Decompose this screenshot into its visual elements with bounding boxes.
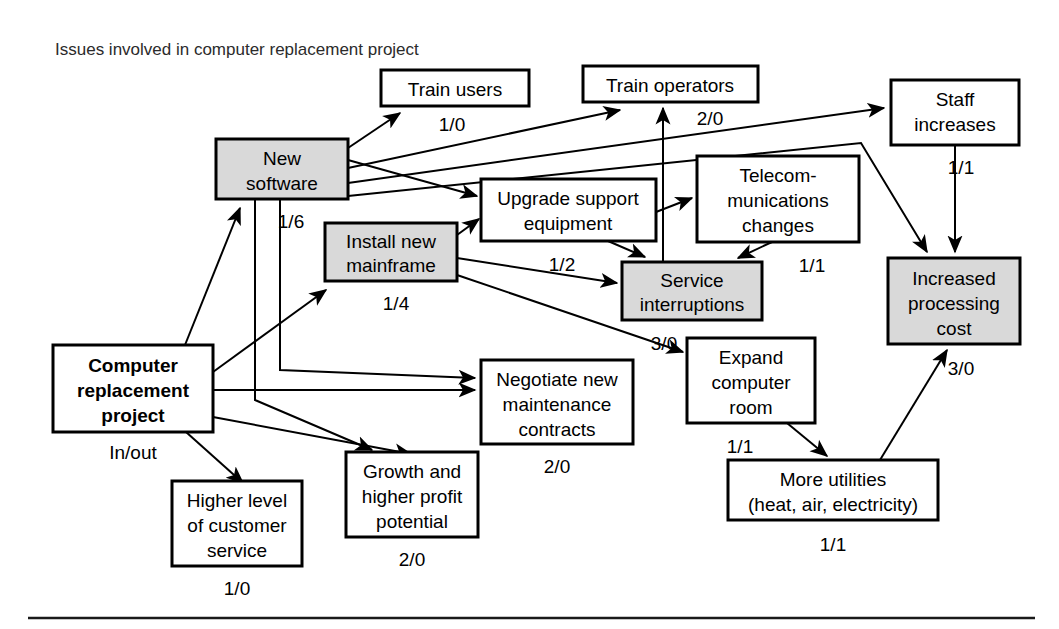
io-label-staff-increases: 1/1 xyxy=(948,157,974,178)
node-more-utilities[interactable]: More utilities (heat, air, electricity) … xyxy=(728,460,938,555)
node-label-train-operators: Train operators xyxy=(606,75,734,96)
edge-install-mainframe-to-service-interruptions xyxy=(457,258,617,283)
node-label-higher-service-line1: Higher level xyxy=(187,490,287,511)
node-label-staff-increases-line2: increases xyxy=(914,114,995,135)
edge-more-utilities-to-increased-cost xyxy=(880,350,947,460)
node-label-expand-room-line3: room xyxy=(729,397,772,418)
io-label-growth: 2/0 xyxy=(399,549,425,570)
io-label-higher-service: 1/0 xyxy=(224,578,250,599)
node-label-new-software-line2: software xyxy=(246,173,318,194)
node-label-install-mainframe-line2: mainframe xyxy=(346,255,436,276)
io-label-train-users: 1/0 xyxy=(439,114,465,135)
io-label-upgrade-support: 1/2 xyxy=(549,254,575,275)
node-label-staff-increases-line1: Staff xyxy=(936,89,975,110)
edge-upgrade-support-to-service-interruptions xyxy=(608,241,645,257)
node-label-crp-line2: replacement xyxy=(77,380,190,401)
figure-title: Issues involved in computer replacement … xyxy=(55,40,419,59)
node-label-increased-cost-line3: cost xyxy=(937,318,973,339)
node-label-more-utilities-line2: (heat, air, electricity) xyxy=(748,494,918,515)
node-label-higher-service-line2: of customer xyxy=(187,515,287,536)
node-label-service-interruptions-line1: Service xyxy=(660,270,723,291)
io-label-install-mainframe: 1/4 xyxy=(383,293,410,314)
io-label-more-utilities: 1/1 xyxy=(820,534,846,555)
edge-crp-to-higher-service xyxy=(186,432,243,483)
node-label-install-mainframe-line1: Install new xyxy=(346,231,436,252)
node-label-growth-line3: potential xyxy=(376,511,448,532)
node-train-operators[interactable]: Train operators 2/0 xyxy=(583,66,758,129)
edge-upgrade-support-to-telecom xyxy=(656,198,692,212)
node-label-telecom-line3: changes xyxy=(742,215,814,236)
edge-expand-room-to-more-utilities xyxy=(787,423,827,456)
node-label-upgrade-support-line2: equipment xyxy=(524,213,613,234)
io-label-increased-cost: 3/0 xyxy=(948,358,974,379)
node-train-users[interactable]: Train users 1/0 xyxy=(381,70,529,135)
node-label-negotiate-line3: contracts xyxy=(518,419,595,440)
node-increased-processing-cost[interactable]: Increased processing cost 3/0 xyxy=(888,258,1020,379)
node-label-service-interruptions-line2: interruptions xyxy=(640,294,745,315)
node-label-telecom-line2: munications xyxy=(727,190,828,211)
node-computer-replacement-project[interactable]: Computer replacement project In/out xyxy=(53,345,213,463)
node-label-increased-cost-line2: processing xyxy=(908,293,1000,314)
edge-telecom-to-service-interruptions xyxy=(738,242,772,258)
node-label-higher-service-line3: service xyxy=(207,540,267,561)
io-label-service-interruptions: 3/0 xyxy=(651,333,677,354)
io-label-train-operators: 2/0 xyxy=(697,108,723,129)
node-staff-increases[interactable]: Staff increases 1/1 xyxy=(891,80,1019,178)
node-label-upgrade-support-line1: Upgrade support xyxy=(497,188,639,209)
node-label-negotiate-line2: maintenance xyxy=(503,394,612,415)
node-label-expand-room-line1: Expand xyxy=(719,347,783,368)
node-label-crp-line3: project xyxy=(101,405,165,426)
node-telecommunications-changes[interactable]: Telecom- munications changes 1/1 xyxy=(697,156,859,276)
node-label-telecom-line1: Telecom- xyxy=(739,165,816,186)
node-label-growth-line1: Growth and xyxy=(363,461,461,482)
node-expand-computer-room[interactable]: Expand computer room 1/1 xyxy=(687,338,815,457)
io-label-negotiate: 2/0 xyxy=(544,456,570,477)
edge-new-software-to-train-users xyxy=(348,113,400,148)
node-growth-higher-profit[interactable]: Growth and higher profit potential 2/0 xyxy=(346,452,478,570)
io-label-new-software: 1/6 xyxy=(278,211,304,232)
edge-crp-to-growth xyxy=(213,417,411,454)
edge-new-software-to-upgrade-support xyxy=(348,160,477,196)
diagram-canvas: Issues involved in computer replacement … xyxy=(0,0,1059,629)
node-higher-level-customer-service[interactable]: Higher level of customer service 1/0 xyxy=(172,481,302,599)
edge-crp-to-install-mainframe xyxy=(213,290,326,372)
edge-install-mainframe-to-upgrade-support xyxy=(457,219,479,235)
io-label-telecom: 1/1 xyxy=(799,255,825,276)
node-label-increased-cost-line1: Increased xyxy=(912,268,995,289)
node-install-new-mainframe[interactable]: Install new mainframe 1/4 xyxy=(325,223,457,314)
io-label-expand-room: 1/1 xyxy=(727,436,753,457)
edge-new-software-to-train-operators xyxy=(348,110,620,168)
node-label-growth-line2: higher profit xyxy=(362,486,463,507)
node-label-expand-room-line2: computer xyxy=(711,372,791,393)
edge-crp-to-new-software xyxy=(185,208,240,345)
node-label-crp-line1: Computer xyxy=(88,355,178,376)
io-label-crp: In/out xyxy=(109,442,157,463)
node-layer: Train users 1/0 Train operators 2/0 Staf… xyxy=(53,66,1020,599)
node-label-new-software-line1: New xyxy=(263,148,301,169)
node-label-more-utilities-line1: More utilities xyxy=(780,469,887,490)
node-negotiate-maintenance-contracts[interactable]: Negotiate new maintenance contracts 2/0 xyxy=(481,360,633,477)
node-label-train-users: Train users xyxy=(408,79,502,100)
issues-diagram: Issues involved in computer replacement … xyxy=(0,0,1059,629)
node-label-negotiate-line1: Negotiate new xyxy=(496,369,618,390)
